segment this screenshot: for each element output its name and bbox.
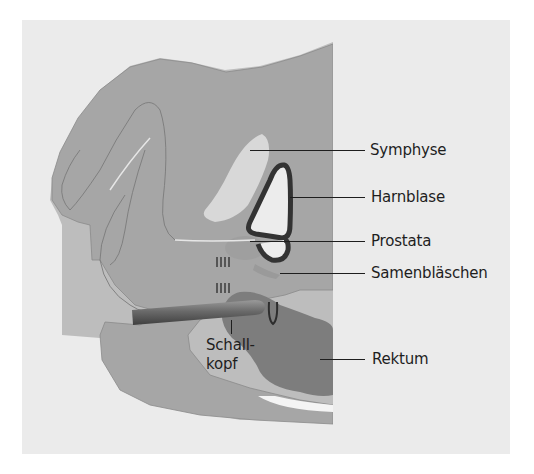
leader-line-samenblaeschen [280, 273, 365, 274]
leader-line-rektum [320, 359, 365, 360]
label-prostata: Prostata [371, 233, 431, 249]
label-schallkopf-line2: kopf [206, 356, 237, 372]
label-harnblase: Harnblase [371, 189, 445, 205]
pelvis-cross-section-illustration [0, 0, 534, 474]
label-schallkopf-line1: Schall- [206, 337, 255, 353]
leader-line-prostata [250, 241, 365, 242]
leader-line-harnblase [290, 197, 365, 198]
label-samenblaeschen: Samenbläschen [371, 265, 488, 281]
leader-line-schallkopf [231, 320, 232, 334]
label-symphyse: Symphyse [370, 142, 446, 158]
leader-line-symphyse [250, 150, 365, 151]
label-rektum: Rektum [372, 351, 428, 367]
